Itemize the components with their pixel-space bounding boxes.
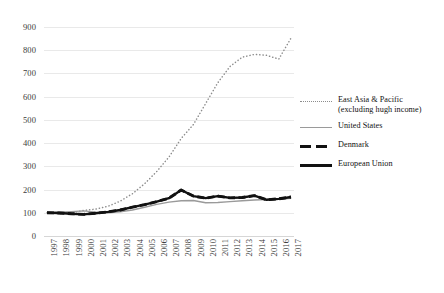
y-tick-label: 0 — [32, 232, 36, 241]
legend-item-label: East Asia & Pacific (excluding hugh inco… — [338, 95, 436, 114]
x-tick-label: 2014 — [258, 239, 267, 256]
y-tick-label: 900 — [23, 23, 36, 32]
x-tick-label: 2001 — [99, 239, 108, 256]
y-tick-label: 500 — [23, 115, 36, 124]
x-axis: 1997199819992000200120022003200420052006… — [44, 239, 294, 283]
plot-area — [44, 27, 294, 236]
thin-solid-line-icon — [300, 123, 332, 133]
x-tick-label: 2003 — [123, 239, 132, 256]
x-tick-label: 2005 — [148, 239, 157, 256]
chart-legend: East Asia & Pacific (excluding hugh inco… — [300, 95, 440, 178]
y-axis: 0100200300400500600700800900 — [0, 27, 40, 236]
x-tick-label: 1997 — [50, 239, 59, 256]
y-tick-label: 100 — [23, 208, 36, 217]
legend-item-united-states[interactable]: United States — [300, 121, 440, 133]
x-tick-label: 2016 — [282, 239, 291, 256]
y-tick-label: 700 — [23, 69, 36, 78]
legend-item-label: Denmark — [338, 140, 369, 150]
dotted-line-icon — [300, 97, 332, 107]
x-tick-label: 2007 — [172, 239, 181, 256]
x-tick-label: 2017 — [294, 239, 303, 256]
x-tick-label: 2013 — [245, 239, 254, 256]
legend-item-east-asia-pacific[interactable]: East Asia & Pacific (excluding hugh inco… — [300, 95, 440, 114]
legend-item-label: European Union — [338, 159, 393, 169]
x-tick-label: 2008 — [184, 239, 193, 256]
y-tick-label: 300 — [23, 162, 36, 171]
series-line — [47, 198, 291, 212]
y-tick-label: 200 — [23, 185, 36, 194]
x-tick-label: 2011 — [221, 239, 230, 256]
series-layer — [44, 27, 294, 236]
x-tick-label: 2002 — [111, 239, 120, 256]
y-tick-label: 400 — [23, 139, 36, 148]
dashed-line-icon — [300, 142, 332, 152]
x-tick-label: 1999 — [75, 239, 84, 256]
legend-item-denmark[interactable]: Denmark — [300, 140, 440, 152]
x-tick-label: 2012 — [233, 239, 242, 256]
thick-solid-line-icon — [300, 161, 332, 171]
x-tick-label: 2010 — [209, 239, 218, 256]
legend-item-label: United States — [338, 121, 383, 131]
x-tick-label: 2000 — [87, 239, 96, 256]
x-tick-label: 1998 — [62, 239, 71, 256]
y-tick-label: 800 — [23, 46, 36, 55]
series-line — [47, 38, 291, 214]
x-tick-label: 2009 — [197, 239, 206, 256]
x-tick-label: 2004 — [136, 239, 145, 256]
x-tick-label: 2015 — [270, 239, 279, 256]
gridline — [44, 236, 294, 237]
legend-item-european-union[interactable]: European Union — [300, 159, 440, 171]
x-tick-label: 2006 — [160, 239, 169, 256]
y-tick-label: 600 — [23, 92, 36, 101]
line-chart: 0100200300400500600700800900 19971998199… — [0, 0, 444, 293]
